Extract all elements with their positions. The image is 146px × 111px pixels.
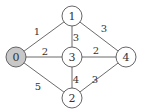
node-2: 2 [62, 88, 82, 108]
edge-weight-0-2: 5 [35, 81, 41, 92]
node-label-2: 2 [69, 92, 76, 105]
node-label-1: 1 [69, 10, 76, 23]
edge-weight-3-4: 2 [93, 45, 99, 56]
node-label-3: 3 [69, 51, 76, 64]
nodes-layer: 01234 [6, 6, 136, 108]
node-1: 1 [62, 6, 82, 26]
edge-weight-0-3: 2 [42, 46, 48, 57]
node-3: 3 [62, 47, 82, 67]
node-4: 4 [116, 47, 136, 67]
edge-weight-0-1: 1 [34, 26, 40, 37]
node-label-0: 0 [13, 51, 20, 64]
edge-weight-3-2: 4 [73, 74, 79, 85]
node-0: 0 [6, 47, 26, 67]
edge-weight-1-3: 3 [73, 32, 79, 43]
weighted-graph-diagram: 12533243 01234 [0, 0, 146, 111]
node-label-4: 4 [123, 51, 130, 64]
edge-weight-1-4: 3 [101, 23, 107, 34]
edge-weight-2-4: 3 [92, 74, 98, 85]
